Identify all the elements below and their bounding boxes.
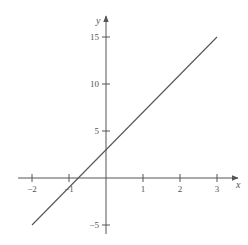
x-tick-label: 3: [215, 184, 220, 194]
y-tick-label: 15: [90, 32, 100, 42]
line-chart: −2−1123−551015 x y: [0, 0, 248, 245]
y-tick-label: 5: [95, 126, 100, 136]
x-axis-label: x: [235, 179, 241, 190]
y-tick-label: −5: [89, 220, 99, 230]
x-tick-label: −1: [64, 184, 74, 194]
x-tick-label: 2: [178, 184, 183, 194]
data-series: [32, 37, 217, 225]
x-tick-label: −2: [27, 184, 37, 194]
x-tick-label: 1: [141, 184, 146, 194]
y-axis-label: y: [95, 15, 101, 26]
series-line: [32, 37, 217, 225]
y-tick-label: 10: [90, 79, 100, 89]
